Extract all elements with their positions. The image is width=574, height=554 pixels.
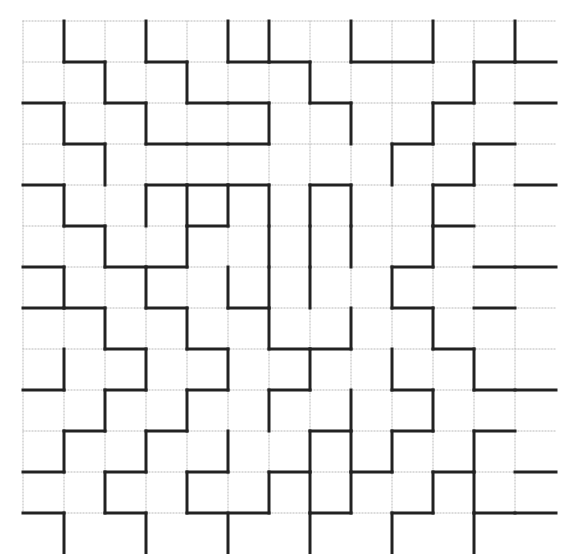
maze-figure xyxy=(0,0,574,554)
maze-canvas xyxy=(0,0,574,554)
